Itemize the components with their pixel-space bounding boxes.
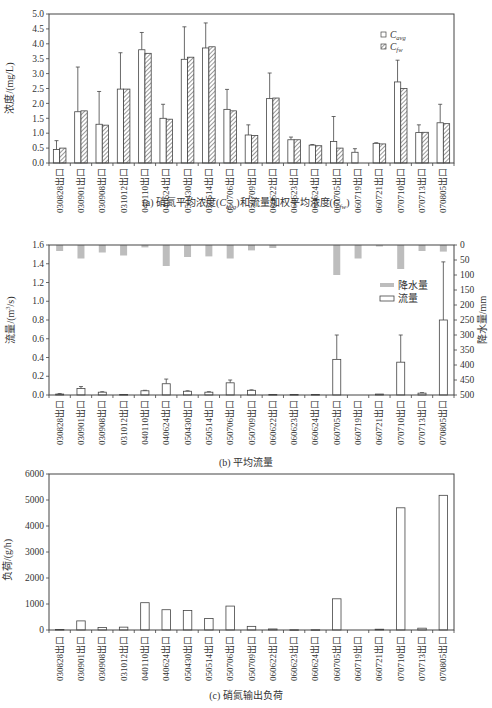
y2-tick-label: 300 bbox=[460, 330, 475, 340]
bar-cfw bbox=[188, 57, 194, 163]
y-tick-label: 0.5 bbox=[32, 143, 44, 153]
x-tick-label: 040110出口 bbox=[139, 400, 150, 445]
bar-cavg bbox=[160, 118, 166, 163]
bar-precipitation bbox=[333, 245, 340, 275]
y-tick-label: 1.6 bbox=[32, 240, 44, 250]
bar-cavg bbox=[96, 124, 102, 163]
bar-flow bbox=[439, 320, 447, 395]
bar-cavg bbox=[139, 50, 145, 163]
x-tick-label: 060624出口 bbox=[309, 400, 320, 445]
bar-cavg bbox=[288, 140, 294, 163]
y2-tick-label: 200 bbox=[460, 300, 475, 310]
x-tick-label: 050430出口 bbox=[182, 400, 193, 445]
bar-precipitation bbox=[205, 245, 212, 256]
y-tick-label: 0 bbox=[39, 625, 44, 635]
caption-a-cfw: C bbox=[333, 197, 340, 208]
x-tick-label: 030901出口 bbox=[75, 636, 86, 681]
y2-tick-label: 50 bbox=[460, 255, 470, 265]
x-tick-label: 060721出口 bbox=[373, 400, 384, 445]
bar-cavg bbox=[224, 109, 230, 163]
x-tick-label: 060705出口 bbox=[331, 400, 342, 445]
bar-cavg bbox=[267, 99, 273, 163]
y-tick-label: 0.0 bbox=[32, 158, 44, 168]
y-tick-label: 2000 bbox=[25, 573, 44, 583]
bar-load bbox=[333, 599, 342, 630]
y-tick-label: 0.2 bbox=[32, 371, 44, 381]
bar-precipitation bbox=[163, 245, 170, 266]
y2-tick-label: 500 bbox=[460, 390, 475, 400]
bar-cfw bbox=[379, 144, 385, 163]
legend-swatch-cfw bbox=[381, 44, 386, 49]
bar-precipitation bbox=[227, 245, 234, 259]
y-tick-label: 4000 bbox=[25, 521, 44, 531]
bar-flow bbox=[141, 391, 149, 395]
bar-precipitation bbox=[248, 245, 255, 250]
bar-cavg bbox=[75, 112, 81, 163]
panel-a-concentration-chart: 0.00.51.01.52.02.53.03.54.04.55.0030828出… bbox=[3, 9, 454, 213]
bar-cavg bbox=[245, 135, 251, 163]
caption-a-prefix: (a) 硝氮平均浓度( bbox=[142, 197, 219, 208]
bar-cfw bbox=[209, 47, 215, 163]
bar-flow bbox=[77, 388, 85, 395]
legend-swatch-precipitation bbox=[380, 283, 394, 287]
caption-a-suffix: ) bbox=[346, 197, 349, 208]
y-tick-label: 1.4 bbox=[32, 259, 44, 269]
x-tick-label: 060721出口 bbox=[373, 636, 384, 681]
bar-flow bbox=[248, 390, 256, 395]
bar-load bbox=[247, 626, 256, 630]
bar-cavg bbox=[394, 82, 400, 163]
bar-precipitation bbox=[419, 245, 426, 251]
y-tick-label: 1.2 bbox=[32, 278, 44, 288]
bar-precipitation bbox=[397, 245, 404, 269]
x-tick-label: 030908出口 bbox=[96, 636, 107, 681]
y2-tick-label: 100 bbox=[460, 270, 475, 280]
y-tick-label: 0.6 bbox=[32, 334, 44, 344]
x-tick-label: 070710出口 bbox=[395, 636, 406, 681]
bar-cavg bbox=[373, 143, 379, 163]
legend-label-cfw: Cfw bbox=[390, 42, 403, 53]
caption-a-mid: )和流量加权平均浓度( bbox=[236, 197, 333, 208]
x-tick-label: 050706出口 bbox=[224, 400, 235, 445]
bar-cfw bbox=[443, 124, 449, 163]
bar-cavg bbox=[352, 152, 358, 163]
bar-cavg bbox=[416, 133, 422, 163]
y-tick-label: 3000 bbox=[25, 547, 44, 557]
x-tick-label: 070805出口 bbox=[437, 400, 448, 445]
x-tick-label: 050709出口 bbox=[246, 636, 257, 681]
bar-cavg bbox=[309, 145, 315, 163]
bar-flow bbox=[184, 391, 192, 395]
y-tick-label: 1000 bbox=[25, 599, 44, 609]
x-tick-label: 030828出口 bbox=[54, 636, 65, 681]
y-tick-label: 1.5 bbox=[32, 114, 44, 124]
bar-cfw bbox=[145, 53, 151, 163]
bar-cfw bbox=[315, 146, 321, 163]
y-axis-label: 流量/(m3/s) bbox=[4, 296, 17, 343]
x-tick-label: 070713出口 bbox=[416, 636, 427, 681]
panel-b-flow-chart: 0.00.20.40.60.81.01.21.41.60501001502002… bbox=[4, 240, 488, 445]
x-tick-label: 031012出口 bbox=[118, 400, 129, 445]
bar-cfw bbox=[337, 148, 343, 163]
y2-tick-label: 0 bbox=[460, 240, 465, 250]
caption-a-cavg-sub: avg bbox=[226, 203, 236, 211]
y-axis-label: 浓度/(mg/L) bbox=[3, 62, 16, 113]
y-tick-label: 2.0 bbox=[32, 99, 44, 109]
y-axis-label: 负荷/(g/h) bbox=[1, 539, 14, 581]
y-tick-label: 5.0 bbox=[32, 9, 44, 19]
caption-b: (b) 平均流量 bbox=[0, 454, 492, 469]
bar-cavg bbox=[330, 142, 336, 163]
plot-frame bbox=[49, 245, 454, 395]
panel-c-load-chart: 0100020003000400050006000030828出口030901出… bbox=[1, 469, 454, 681]
y2-tick-label: 350 bbox=[460, 345, 475, 355]
bar-precipitation bbox=[99, 245, 106, 253]
legend-swatch-flow bbox=[380, 296, 394, 301]
legend-swatch-cavg bbox=[381, 32, 386, 37]
x-tick-label: 060719出口 bbox=[352, 400, 363, 445]
bar-cfw bbox=[294, 140, 300, 163]
x-tick-label: 060719出口 bbox=[352, 636, 363, 681]
legend-label-cavg: Cavg bbox=[390, 30, 406, 41]
x-tick-label: 040110出口 bbox=[139, 636, 150, 681]
bar-cavg bbox=[117, 89, 123, 163]
x-tick-label: 030901出口 bbox=[75, 400, 86, 445]
bar-load bbox=[226, 606, 235, 630]
x-tick-label: 031012出口 bbox=[118, 636, 129, 681]
